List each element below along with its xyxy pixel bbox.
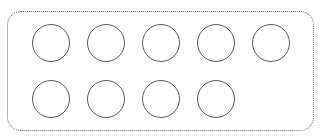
circle-shape — [142, 24, 180, 62]
circle-shape — [197, 80, 235, 118]
circle-shape — [32, 80, 70, 118]
circle-shape — [32, 24, 70, 62]
circle-shape — [142, 80, 180, 118]
circle-shape — [87, 80, 125, 118]
circle-shape — [197, 24, 235, 62]
circle-shape — [87, 24, 125, 62]
circle-shape — [252, 24, 290, 62]
